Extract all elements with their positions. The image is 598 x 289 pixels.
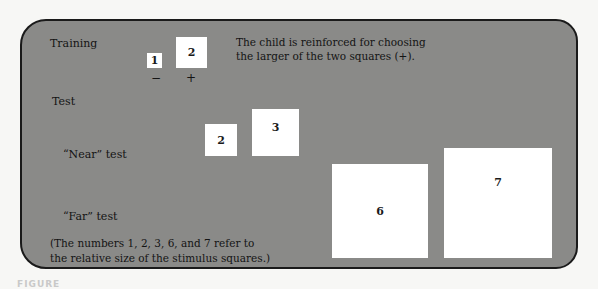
training-square-small: 1	[147, 53, 162, 68]
training-square-large: 2	[176, 37, 207, 68]
test-label: Test	[52, 95, 75, 108]
near-square-large: 3	[252, 109, 299, 156]
description-line-1: The child is reinforced for choosing	[236, 35, 426, 49]
near-test-label: “Near” test	[63, 148, 127, 161]
minus-sign-icon: −	[151, 72, 161, 84]
far-square-small: 6	[332, 164, 428, 258]
footnote-line-2: the relative size of the stimulus square…	[50, 251, 270, 266]
near-square-small: 2	[205, 124, 237, 156]
description-line-2: the larger of the two squares (+).	[236, 49, 426, 63]
footnote-line-1: (The numbers 1, 2, 3, 6, and 7 refer to	[50, 236, 270, 251]
figure-caption: FIGURE	[17, 279, 60, 289]
plus-sign-icon: +	[186, 72, 196, 84]
footnote: (The numbers 1, 2, 3, 6, and 7 refer to …	[50, 236, 270, 266]
training-label: Training	[50, 37, 97, 50]
far-square-large: 7	[444, 148, 552, 258]
training-description: The child is reinforced for choosing the…	[236, 35, 426, 63]
far-test-label: “Far” test	[63, 210, 117, 223]
